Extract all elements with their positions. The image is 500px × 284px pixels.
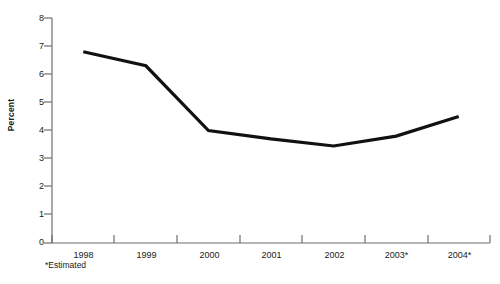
data-series-line	[83, 52, 458, 146]
axis-lines	[52, 18, 490, 243]
line-chart: Percent 8 7 6 5 4 3 2 1 0 1998 1999 2000…	[0, 0, 500, 284]
plot-area	[0, 0, 500, 284]
x-axis-ticks	[52, 235, 490, 243]
y-axis-ticks	[44, 18, 52, 243]
